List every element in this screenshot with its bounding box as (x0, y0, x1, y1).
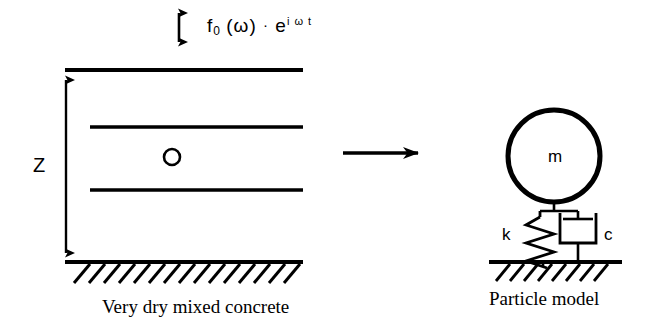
diagram-canvas (0, 0, 661, 333)
damper-element (560, 211, 596, 262)
figure-root: f0 (ω) · ei ω t Z Very dry mixed concret… (0, 0, 661, 333)
spring-element (526, 211, 554, 268)
formula-exponent: i ω t (287, 15, 312, 27)
formula-operator: · (263, 16, 269, 33)
formula-subscript: 0 (213, 24, 220, 38)
formula-exp-base: e (275, 15, 287, 36)
spring-label: k (502, 226, 511, 243)
concrete-layer-stack (65, 70, 303, 262)
mass-label: m (548, 148, 562, 165)
height-dimension-label: Z (33, 155, 45, 175)
particle-model-group (489, 110, 622, 281)
particle-ground-hatching (496, 264, 608, 281)
concrete-caption: Very dry mixed concrete (102, 297, 289, 316)
excitation-formula: f0 (ω) · ei ω t (207, 16, 312, 37)
particle-marker-circle (164, 149, 180, 165)
particle-model-caption: Particle model (489, 289, 599, 308)
formula-argument: (ω) (226, 15, 257, 36)
concrete-ground-hatching (74, 264, 300, 283)
damper-label: c (604, 226, 613, 243)
